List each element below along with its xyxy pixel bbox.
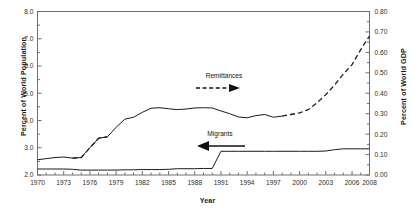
svg-text:0.80: 0.80: [375, 8, 388, 15]
svg-text:0.00: 0.00: [375, 171, 388, 178]
svg-text:0.20: 0.20: [375, 131, 388, 138]
svg-text:2.0: 2.0: [24, 171, 33, 178]
annotation-label-migrants: Migrants: [207, 130, 233, 138]
svg-text:1985: 1985: [161, 179, 176, 186]
svg-text:1997: 1997: [266, 179, 281, 186]
y-axis-right-ticks: 0.000.100.200.300.400.500.600.700.80: [366, 8, 388, 179]
y-axis-right-title: Percent of World GDP: [399, 17, 408, 157]
series-line-remittances-dashed: [282, 36, 369, 116]
svg-text:0.30: 0.30: [375, 110, 388, 117]
x-axis-title: Year: [0, 196, 415, 205]
arrow-head-left-icon: [197, 141, 209, 151]
annotation-migrants: Migrants: [197, 130, 245, 151]
svg-text:1979: 1979: [109, 179, 124, 186]
x-axis-ticks: 1970197319761979198219851988199119941997…: [30, 171, 377, 186]
svg-text:1973: 1973: [56, 179, 71, 186]
series-line-remittances-solid: [38, 108, 283, 160]
chart-plot-area: 2.03.04.05.06.07.08.0 0.000.100.200.300.…: [0, 0, 415, 213]
svg-text:0.70: 0.70: [375, 28, 388, 35]
arrow-head-right-icon: [229, 84, 240, 92]
svg-text:0.60: 0.60: [375, 49, 388, 56]
svg-text:0.10: 0.10: [375, 151, 388, 158]
svg-text:2008: 2008: [362, 179, 377, 186]
chart-figure: 2.03.04.05.06.07.08.0 0.000.100.200.300.…: [0, 0, 415, 213]
annotation-label-remittances: Remittances: [206, 72, 243, 79]
series-group: [38, 36, 370, 170]
svg-text:2003: 2003: [318, 179, 333, 186]
svg-text:0.50: 0.50: [375, 69, 388, 76]
svg-text:1994: 1994: [240, 179, 255, 186]
svg-text:1988: 1988: [187, 179, 202, 186]
svg-text:2006: 2006: [345, 179, 360, 186]
svg-text:8.0: 8.0: [24, 8, 33, 15]
svg-text:2000: 2000: [292, 179, 307, 186]
svg-text:0.40: 0.40: [375, 90, 388, 97]
series-line-migrants: [38, 149, 370, 170]
svg-text:1976: 1976: [83, 179, 98, 186]
svg-text:1991: 1991: [214, 179, 229, 186]
y-axis-left-title: Percent of World Population: [19, 17, 28, 157]
annotation-remittances: Remittances: [196, 72, 243, 92]
svg-text:1982: 1982: [135, 179, 150, 186]
svg-text:1970: 1970: [30, 179, 45, 186]
